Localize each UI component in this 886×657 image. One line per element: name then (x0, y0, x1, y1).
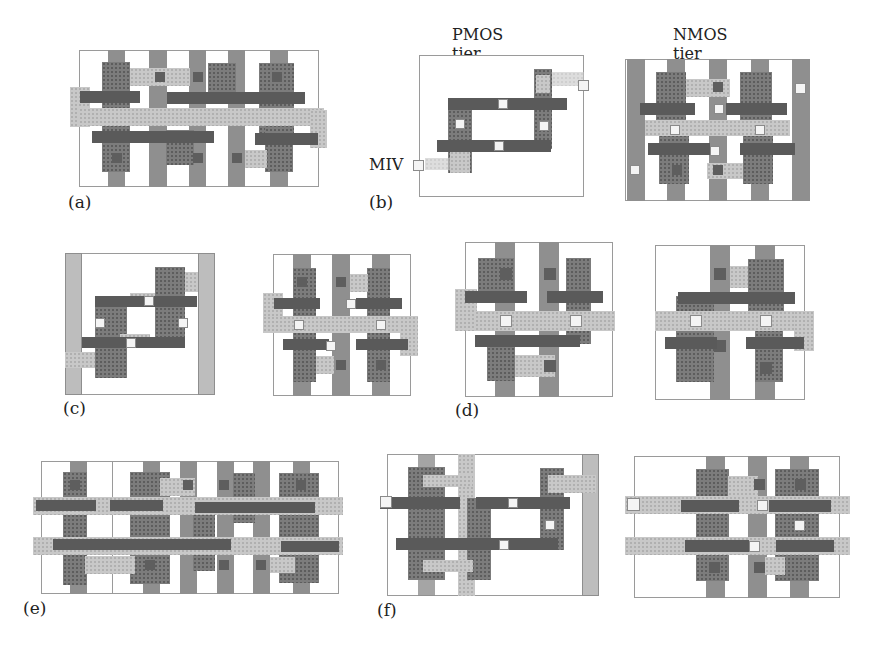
miv-square (376, 320, 386, 330)
metal1-strip (645, 120, 790, 136)
contact (232, 153, 242, 163)
metal1-strip (655, 311, 805, 331)
contact (672, 165, 682, 175)
contact (297, 277, 307, 287)
metal1-strip (350, 274, 368, 292)
panel-label-a: (a) (68, 192, 91, 212)
gate-bar (648, 143, 710, 155)
miv-square (670, 125, 680, 135)
panel-label-b: (b) (369, 192, 393, 212)
metal1-strip (425, 158, 450, 170)
metal1-strip (548, 475, 596, 493)
miv-square (757, 500, 768, 511)
power-rail (198, 253, 215, 395)
contact (193, 153, 203, 163)
gate-bar (281, 541, 339, 552)
gate-bar (92, 131, 214, 143)
contact (714, 268, 726, 280)
gate-bar (476, 497, 570, 509)
miv-square (455, 119, 465, 129)
gate-bar (640, 103, 695, 115)
gate-bar (685, 540, 749, 552)
contact (336, 277, 346, 287)
contact (544, 268, 556, 280)
metal1-strip (730, 266, 748, 288)
metal1-strip (423, 475, 473, 487)
miv-square (326, 341, 336, 351)
contact (256, 560, 266, 570)
diffusion-region (265, 120, 293, 172)
contact (183, 480, 193, 490)
metal1-strip (85, 556, 135, 574)
miv-square (346, 299, 356, 309)
gate-bar (110, 500, 163, 511)
metal1-strip (245, 150, 267, 168)
gate-bar (274, 298, 320, 309)
gate-bar (740, 143, 795, 155)
metal1-strip (185, 272, 198, 292)
miv-square (499, 540, 509, 550)
miv-square (690, 315, 702, 327)
gate-bar (255, 133, 318, 145)
gate-bar (36, 500, 96, 511)
gate-bar (167, 92, 305, 104)
contact (544, 360, 556, 372)
miv-square (294, 320, 304, 330)
contact (376, 360, 386, 370)
miv-square (494, 141, 504, 151)
miv-square (539, 121, 549, 131)
metal1-strip (686, 79, 730, 97)
contact (713, 82, 723, 92)
contact (795, 479, 806, 490)
miv-square (498, 99, 508, 109)
gate-bar (678, 292, 795, 304)
miv-square (570, 315, 582, 327)
gate-bar (356, 298, 402, 309)
gate-bar (53, 539, 231, 550)
gate-bar (195, 502, 315, 513)
metal1-strip (400, 316, 418, 356)
power-rail (65, 253, 82, 395)
miv-square (178, 318, 188, 328)
panel-label-f: (f) (377, 600, 397, 620)
metal1-strip (450, 151, 470, 173)
miv-square (794, 520, 805, 531)
metal1-strip (316, 356, 334, 374)
gate-bar (746, 337, 804, 349)
contact (272, 72, 282, 82)
poly-column (253, 461, 270, 594)
miv-square (714, 104, 724, 114)
diffusion-region (740, 72, 772, 124)
gate-bar (380, 497, 460, 509)
contact (219, 560, 229, 570)
gate-bar (665, 337, 717, 349)
poly-column (627, 59, 645, 201)
miv-label: MIV (369, 155, 403, 174)
gate-bar (776, 540, 834, 552)
contact (193, 72, 203, 82)
miv-square (630, 165, 640, 175)
miv-square (755, 125, 765, 135)
miv-square (144, 296, 154, 306)
miv-square (413, 160, 424, 171)
metal1-strip (765, 557, 785, 575)
metal1-strip (270, 557, 295, 573)
contact (754, 562, 765, 573)
metal1-strip (65, 352, 95, 368)
gate-bar (80, 91, 140, 103)
panel-label-e: (e) (23, 598, 46, 618)
contact (754, 479, 765, 490)
contact (760, 362, 772, 374)
metal1-strip (475, 311, 615, 331)
miv-square (760, 315, 772, 327)
miv-square (710, 146, 720, 156)
metal1-strip (263, 316, 413, 333)
gate-bar (465, 291, 527, 303)
metal1-strip (536, 75, 550, 93)
miv-square (545, 520, 555, 530)
miv-square (95, 318, 105, 328)
metal1-strip (79, 108, 324, 126)
miv-square (126, 338, 136, 348)
contact (336, 360, 346, 370)
miv-square (380, 496, 392, 508)
